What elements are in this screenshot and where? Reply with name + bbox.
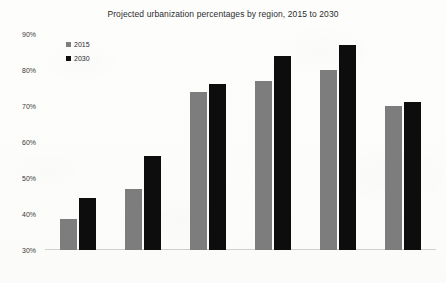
- legend-item-2030: 2030: [66, 55, 90, 62]
- legend-item-2015: 2015: [66, 41, 90, 48]
- legend-label-2015: 2015: [74, 41, 90, 48]
- bar-latin-america-2015: [320, 70, 337, 250]
- bar-latin-america-2030: [339, 45, 356, 250]
- y-axis-tick-40: 40%: [22, 211, 36, 218]
- plot-area: AfricaAsiaEuropeNorth AmericaLatin Ameri…: [45, 34, 436, 250]
- y-axis-tick-60: 60%: [22, 139, 36, 146]
- bar-oceania-2015: [385, 106, 402, 250]
- bar-north-america-2015: [255, 81, 272, 250]
- legend-swatch-icon-2015: [66, 42, 71, 47]
- chart-legend: 20152030: [66, 41, 90, 62]
- bar-asia-2030: [144, 156, 161, 250]
- x-axis-baseline: [45, 249, 436, 250]
- y-axis-tick-90: 90%: [22, 31, 36, 38]
- legend-label-2030: 2030: [74, 55, 90, 62]
- chart-title: Projected urbanization percentages by re…: [0, 9, 446, 19]
- y-axis-tick-labels: 90%80%70%60%50%40%30%: [0, 34, 45, 250]
- bar-europe-2030: [209, 84, 226, 250]
- bar-north-america-2030: [274, 56, 291, 250]
- y-axis-tick-70: 70%: [22, 103, 36, 110]
- bar-asia-2015: [125, 189, 142, 250]
- legend-swatch-icon-2030: [66, 56, 71, 61]
- bar-africa-2030: [79, 198, 96, 250]
- y-axis-tick-50: 50%: [22, 175, 36, 182]
- bar-africa-2015: [60, 219, 77, 250]
- y-axis-tick-30: 30%: [22, 247, 36, 254]
- bar-europe-2015: [190, 92, 207, 250]
- bar-oceania-2030: [404, 102, 421, 250]
- y-axis-tick-80: 80%: [22, 67, 36, 74]
